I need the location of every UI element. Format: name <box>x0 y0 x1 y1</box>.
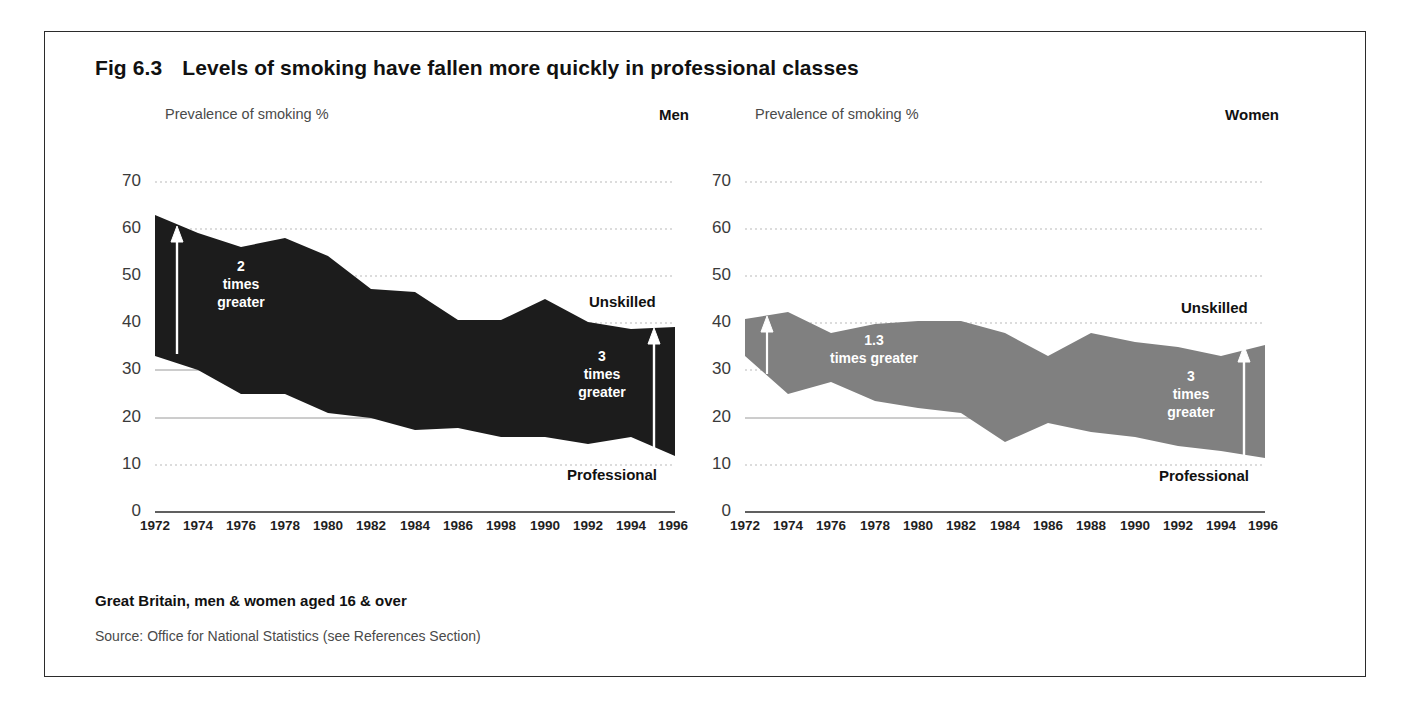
x-tick-men-3: 1978 <box>270 518 300 533</box>
men-label-unskilled: Unskilled <box>589 293 656 310</box>
figure-footnote: Great Britain, men & women aged 16 & ove… <box>95 592 407 609</box>
x-tick-women-3: 1978 <box>860 518 890 533</box>
x-tick-women-4: 1980 <box>903 518 933 533</box>
y-tick-men-50: 50 <box>95 266 141 283</box>
x-tick-men-4: 1980 <box>313 518 343 533</box>
x-tick-men-8: 1998 <box>486 518 516 533</box>
y-tick-men-20: 20 <box>95 408 141 425</box>
men-label-professional: Professional <box>567 466 657 483</box>
y-axis-title-men: Prevalence of smoking % <box>165 106 329 122</box>
x-axis-women: 1972 1974 1976 1978 1980 1982 1984 1986 … <box>685 518 1285 548</box>
y-tick-women-10: 10 <box>685 455 731 472</box>
y-tick-women-30: 30 <box>685 360 731 377</box>
y-tick-women-50: 50 <box>685 266 731 283</box>
figure-title: Fig 6.3Levels of smoking have fallen mor… <box>95 56 859 80</box>
figure-number: Fig 6.3 <box>95 56 162 79</box>
x-tick-women-5: 1982 <box>946 518 976 533</box>
x-tick-women-1: 1974 <box>773 518 803 533</box>
x-tick-women-2: 1976 <box>816 518 846 533</box>
men-annotation-left: 2 times greater <box>195 258 287 312</box>
y-tick-men-70: 70 <box>95 172 141 189</box>
x-tick-men-9: 1990 <box>530 518 560 533</box>
women-label-professional: Professional <box>1159 467 1249 484</box>
women-annotation-left: 1.3 times greater <box>785 332 963 368</box>
women-label-unskilled: Unskilled <box>1181 299 1248 316</box>
y-tick-men-40: 40 <box>95 313 141 330</box>
x-tick-women-10: 1992 <box>1163 518 1193 533</box>
men-annotation-right: 3 times greater <box>565 348 639 402</box>
y-tick-men-0: 0 <box>95 502 141 519</box>
x-tick-men-11: 1994 <box>616 518 646 533</box>
women-annotation-right: 3 times greater <box>1153 368 1229 422</box>
y-tick-men-10: 10 <box>95 455 141 472</box>
figure-frame: Fig 6.3Levels of smoking have fallen mor… <box>44 31 1366 677</box>
y-tick-women-70: 70 <box>685 172 731 189</box>
x-tick-women-7: 1986 <box>1033 518 1063 533</box>
figure-source: Source: Office for National Statistics (… <box>95 628 481 644</box>
y-tick-women-60: 60 <box>685 219 731 236</box>
y-tick-men-30: 30 <box>95 360 141 377</box>
panel-title-women: Women <box>1225 106 1279 123</box>
chart-panel-women: Prevalence of smoking % Women <box>685 106 1285 536</box>
y-tick-women-0: 0 <box>685 502 731 519</box>
men-area-band <box>155 215 675 456</box>
x-tick-women-11: 1994 <box>1206 518 1236 533</box>
x-tick-men-5: 1982 <box>356 518 386 533</box>
x-tick-women-8: 1988 <box>1076 518 1106 533</box>
plot-area-women: 70 60 50 40 30 20 10 0 Unskilled Profess… <box>685 130 1285 536</box>
y-tick-women-40: 40 <box>685 313 731 330</box>
x-tick-men-12: 1996 <box>658 518 688 533</box>
x-tick-women-0: 1972 <box>730 518 760 533</box>
x-tick-women-12: 1996 <box>1248 518 1278 533</box>
x-tick-men-0: 1972 <box>140 518 170 533</box>
x-tick-men-6: 1984 <box>400 518 430 533</box>
y-tick-men-60: 60 <box>95 219 141 236</box>
chart-panel-men: Prevalence of smoking % Men <box>95 106 695 536</box>
x-tick-men-1: 1974 <box>183 518 213 533</box>
x-tick-women-6: 1984 <box>990 518 1020 533</box>
x-tick-men-7: 1986 <box>443 518 473 533</box>
x-tick-men-10: 1992 <box>573 518 603 533</box>
figure-title-text: Levels of smoking have fallen more quick… <box>182 56 859 79</box>
x-axis-men: 1972 1974 1976 1978 1980 1982 1984 1986 … <box>95 518 695 548</box>
y-tick-women-20: 20 <box>685 408 731 425</box>
x-tick-women-9: 1990 <box>1120 518 1150 533</box>
y-axis-title-women: Prevalence of smoking % <box>755 106 919 122</box>
plot-area-men: 70 60 50 40 30 20 10 0 Unskilled Profess… <box>95 130 695 536</box>
x-tick-men-2: 1976 <box>226 518 256 533</box>
